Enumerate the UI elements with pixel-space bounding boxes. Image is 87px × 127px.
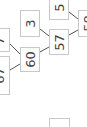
edge-3-57 [40, 29, 49, 36]
tree-node-67: 67 [0, 56, 10, 95]
tree-node-7: 7 [0, 28, 10, 52]
tree-node-57: 57 [49, 29, 69, 55]
tree-node-5: 5 [49, 0, 69, 20]
tree-node-blank [49, 118, 70, 127]
edge-67-60 [10, 64, 20, 70]
edge-60-57 [40, 47, 49, 52]
node-label: 60 [22, 51, 37, 68]
node-label: 3 [23, 19, 38, 27]
node-label: 58 [81, 15, 87, 32]
node-label: 57 [51, 34, 66, 51]
edge-7-60 [10, 44, 20, 54]
node-label: 67 [0, 67, 6, 84]
node-label: 7 [0, 36, 7, 44]
tree-node-3: 3 [20, 10, 40, 37]
tree-node-60: 60 [20, 47, 40, 72]
node-label: 5 [52, 3, 67, 11]
tree-node-58: 58 [78, 10, 87, 37]
edge-5-58 [69, 12, 78, 19]
tree-edges [0, 0, 87, 127]
edge-57-58 [69, 30, 78, 35]
